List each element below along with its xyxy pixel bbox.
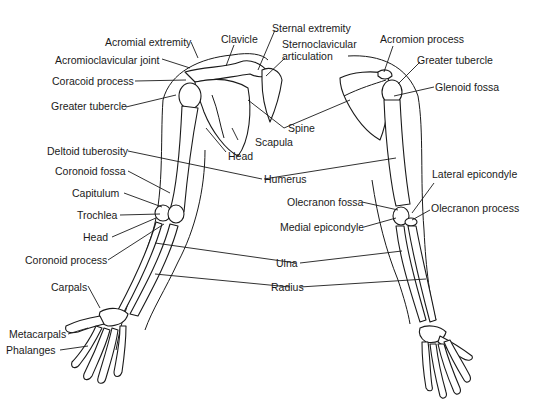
label-carpals: Carpals: [51, 281, 87, 293]
label-metacarpals: Metacarpals: [9, 328, 66, 340]
label-articulation: articulation: [282, 50, 333, 62]
label-greater-tubercle-anterior: Greater tubercle: [51, 100, 127, 112]
label-coronoid-process: Coronoid process: [25, 254, 107, 266]
label-deltoid-tuberosity: Deltoid tuberosity: [47, 145, 128, 157]
label-scapula: Scapula: [255, 136, 293, 148]
label-coronoid-fossa: Coronoid fossa: [55, 165, 126, 177]
label-head-humerus: Head: [228, 150, 253, 162]
label-trochlea: Trochlea: [77, 209, 117, 221]
label-radius: Radius: [271, 281, 304, 293]
label-phalanges: Phalanges: [6, 344, 56, 356]
label-spine: Spine: [288, 122, 315, 134]
label-capitulum: Capitulum: [72, 187, 119, 199]
label-acromioclavicular-joint: Acromioclavicular joint: [55, 54, 159, 66]
label-ulna: Ulna: [276, 257, 298, 269]
label-acromial-extremity: Acromial extremity: [105, 36, 191, 48]
label-clavicle: Clavicle: [221, 33, 258, 45]
label-humerus: Humerus: [264, 173, 307, 185]
label-coracoid-process: Coracoid process: [52, 75, 134, 87]
label-glenoid-fossa: Glenoid fossa: [435, 81, 499, 93]
label-sternal-extremity: Sternal extremity: [272, 22, 351, 34]
label-olecranon-fossa: Olecranon fossa: [287, 196, 363, 208]
label-olecranon-process: Olecranon process: [431, 202, 519, 214]
label-sternoclavicular: Sternoclavicular: [282, 38, 357, 50]
label-medial-epicondyle: Medial epicondyle: [280, 221, 364, 233]
label-greater-tubercle-posterior: Greater tubercle: [417, 54, 493, 66]
label-head-radius: Head: [83, 231, 108, 243]
label-acromion-process: Acromion process: [380, 33, 464, 45]
label-lateral-epicondyle: Lateral epicondyle: [432, 168, 517, 180]
upper-limb-bone-diagram: Acromial extremity Clavicle Sternal extr…: [0, 0, 538, 419]
